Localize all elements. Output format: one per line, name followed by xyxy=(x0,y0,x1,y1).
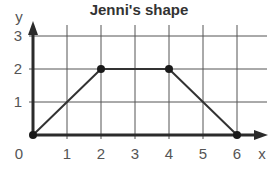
vertex-point xyxy=(233,131,241,139)
x-tick-label: 5 xyxy=(199,145,207,162)
y-tick-label: 1 xyxy=(14,93,22,110)
vertex-point xyxy=(165,65,173,73)
x-tick-label: 4 xyxy=(165,145,173,162)
y-axis-label: y xyxy=(15,8,23,25)
vertex-point xyxy=(97,65,105,73)
coordinate-grid-chart: 1234560123xy xyxy=(0,0,278,175)
x-axis-label: x xyxy=(258,145,266,162)
y-tick-label: 2 xyxy=(14,60,22,77)
x-axis-arrow-icon xyxy=(254,130,268,140)
y-axis-arrow-icon xyxy=(28,21,38,35)
x-tick-label: 6 xyxy=(233,145,241,162)
x-tick-label: 2 xyxy=(97,145,105,162)
origin-label: 0 xyxy=(15,145,23,162)
x-tick-label: 3 xyxy=(131,145,139,162)
vertex-point xyxy=(29,131,37,139)
x-tick-label: 1 xyxy=(63,145,71,162)
y-tick-label: 3 xyxy=(14,27,22,44)
